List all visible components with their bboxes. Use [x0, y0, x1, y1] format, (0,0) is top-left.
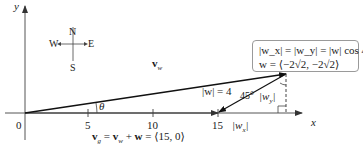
info-box-line-1: |w_x| = |w_y| = |w| cos 45° — [259, 43, 358, 57]
wx-label: |wx| — [232, 120, 249, 134]
x-axis-label: x — [311, 117, 316, 128]
compass-west: W — [49, 39, 58, 49]
right-angle-mark — [278, 106, 286, 113]
vw-label: vw — [152, 58, 162, 72]
info-box: |w_x| = |w_y| = |w| cos 45° w = ⟨−2√2, −… — [252, 40, 359, 72]
angle-45-arc — [280, 83, 286, 85]
compass-south: S — [70, 63, 76, 73]
info-box-line-2: w = ⟨−2√2, −2√2⟩ — [259, 57, 358, 71]
origin-label: 0 — [16, 120, 22, 131]
angle-45-label: 45° — [240, 91, 254, 101]
wy-label: |wy| — [259, 91, 276, 105]
compass-north: N — [69, 27, 76, 37]
diagram-canvas — [0, 0, 363, 146]
compass-east: E — [88, 39, 94, 49]
theta-arc — [96, 103, 97, 113]
bottom-equation: vg = vw + w = ⟨15, 0⟩ — [92, 131, 185, 145]
theta-label: θ — [99, 101, 104, 112]
tick-label-5: 5 — [85, 120, 91, 131]
w-magnitude-label: |w| = 4 — [202, 86, 232, 97]
y-axis-label: y — [14, 1, 19, 12]
tick-label-15: 15 — [212, 120, 223, 131]
